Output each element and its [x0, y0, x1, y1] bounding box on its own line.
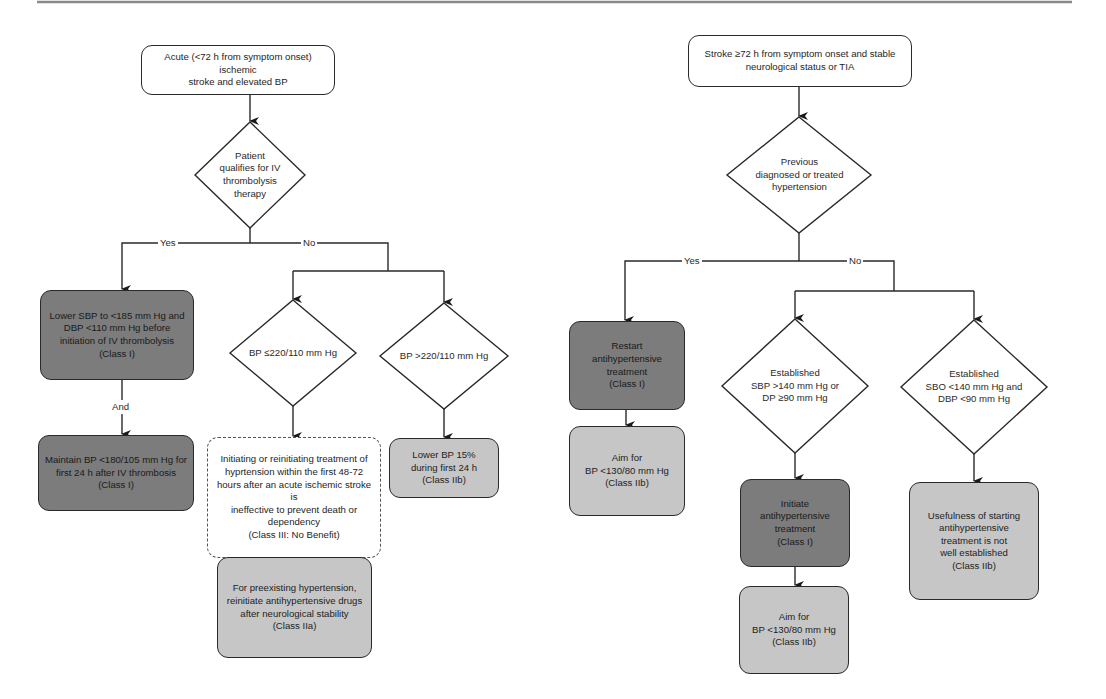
aim-initiate-node: Aim for BP <130/80 mm Hg (Class IIb) — [739, 586, 849, 674]
aim-restart-node: Aim for BP <130/80 mm Hg (Class IIb) — [569, 426, 685, 516]
right-start-node: Stroke ≥72 h from symptom onset and stab… — [688, 35, 912, 87]
usefulness-node: Usefulness of starting antihypertensive … — [909, 482, 1039, 600]
left-start-node: Acute (<72 h from symptom onset) ischemi… — [141, 45, 335, 95]
decision-bp-gt-text: BP >220/110 mm Hg — [388, 343, 500, 369]
decision-thrombolysis-text: Patient qualifies for IV thrombolysis th… — [205, 140, 295, 210]
preexisting-node: For preexisting hypertension, reinitiate… — [217, 557, 372, 658]
decision-established-high-text: Established SBP >140 mm Hg or DP ≥90 mm … — [735, 362, 855, 410]
and-label: And — [110, 401, 131, 412]
initiate-treatment-node: Initiate antihypertensive treatment (Cla… — [740, 479, 850, 567]
lower-bp-15-node: Lower BP 15% during first 24 h (Class II… — [389, 438, 499, 498]
right-no-label: No — [847, 255, 863, 266]
maintain-bp-node: Maintain BP <180/105 mm Hg for first 24 … — [38, 435, 194, 511]
restart-treatment-node: Restart antihypertensive treatment (Clas… — [569, 321, 685, 410]
decision-previous-text: Previous diagnosed or treated hypertensi… — [742, 150, 857, 200]
left-no-label: No — [301, 237, 317, 248]
right-yes-label: Yes — [682, 255, 702, 266]
initiating-node: Initiating or reinitiating treatment of … — [207, 437, 381, 558]
decision-bp-le-text: BP ≤220/110 mm Hg — [238, 340, 348, 366]
left-yes-label: Yes — [158, 237, 178, 248]
decision-established-low-text: Established SBO <140 mm Hg and DBP <90 m… — [912, 363, 1036, 411]
lower-sbp-node: Lower SBP to <185 mm Hg and DBP <110 mm … — [40, 290, 194, 380]
